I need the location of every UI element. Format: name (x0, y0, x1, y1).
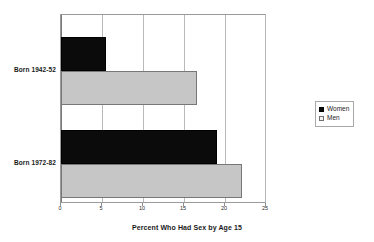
plot-area (60, 14, 266, 203)
bar-women-born-1942-52 (61, 37, 106, 71)
xtick-label-10: 10 (132, 206, 152, 212)
xtick-label-15: 15 (173, 206, 193, 212)
category-label-born-1972-82: Born 1972-82 (14, 160, 56, 167)
legend-label-women: Women (327, 106, 349, 113)
xtick-label-5: 5 (91, 206, 111, 212)
chart-legend: Women Men (315, 101, 354, 127)
legend-item-women: Women (319, 105, 349, 114)
legend-item-men: Men (319, 114, 349, 123)
xtick-label-20: 20 (214, 206, 234, 212)
bar-men-born-1972-82 (61, 164, 242, 198)
xtick-label-25: 25 (255, 206, 275, 212)
category-label-born-1942-52: Born 1942-52 (14, 67, 56, 74)
xtick-label-0: 0 (50, 206, 70, 212)
bar-men-born-1942-52 (61, 71, 197, 105)
bar-women-born-1972-82 (61, 130, 217, 164)
bar-chart: 0 5 10 15 20 25 Born 1942-52 Born 1972-8… (0, 0, 374, 242)
legend-swatch-women-icon (319, 107, 324, 112)
legend-label-men: Men (327, 115, 340, 122)
legend-swatch-men-icon (319, 116, 324, 121)
x-axis-title: Percent Who Had Sex by Age 15 (0, 224, 374, 231)
